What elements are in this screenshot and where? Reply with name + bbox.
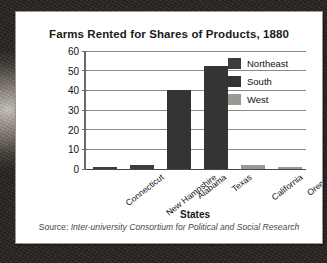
- source-note: Source: Inter-university Consortium for …: [16, 222, 322, 232]
- legend-swatch-west: [228, 94, 241, 105]
- x-axis-title: States: [84, 209, 306, 220]
- legend-label-west: West: [247, 94, 268, 105]
- legend-swatch-south: [228, 76, 241, 87]
- bar-oregon: [278, 167, 302, 169]
- legend: NortheastSouthWest: [228, 55, 314, 109]
- bar-connecticut: [93, 167, 117, 169]
- source-text: Inter-university Consortium for Politica…: [71, 222, 300, 232]
- source-prefix: Source:: [39, 222, 69, 232]
- y-tick-30: [82, 110, 87, 111]
- x-tick-label-oregon: Oregon: [305, 172, 323, 198]
- bar-texas: [204, 66, 228, 169]
- legend-item-south: South: [228, 73, 314, 89]
- y-tick-label-50: 50: [68, 65, 79, 76]
- y-tick-label-0: 0: [73, 164, 79, 175]
- x-tick-label-california: California: [269, 172, 304, 202]
- y-tick-label-20: 20: [68, 124, 79, 135]
- legend-label-northeast: Northeast: [247, 58, 288, 69]
- y-tick-label-60: 60: [68, 46, 79, 57]
- bar-alabama: [167, 90, 191, 169]
- gridline-20: [86, 129, 306, 130]
- y-tick-label-10: 10: [68, 144, 79, 155]
- y-tick-40: [82, 90, 87, 91]
- gridline-0: [86, 169, 306, 170]
- legend-swatch-northeast: [228, 58, 241, 69]
- y-tick-label-40: 40: [68, 85, 79, 96]
- y-tick-label-30: 30: [68, 105, 79, 116]
- legend-item-west: West: [228, 91, 314, 107]
- y-tick-60: [82, 51, 87, 52]
- gridline-10: [86, 149, 306, 150]
- gridline-30: [86, 110, 306, 111]
- bar-california: [241, 165, 265, 169]
- y-tick-0: [82, 169, 87, 170]
- legend-label-south: South: [247, 76, 272, 87]
- y-tick-20: [82, 129, 87, 130]
- x-tick-label-connecticut: Connecticut: [123, 172, 165, 208]
- bar-new-hampshire: [130, 165, 154, 169]
- gridline-60: [86, 51, 306, 52]
- chart-title: Farms Rented for Shares of Products, 188…: [16, 28, 322, 40]
- y-tick-50: [82, 70, 87, 71]
- x-tick-label-texas: Texas: [229, 172, 253, 194]
- chart-card: Farms Rented for Shares of Products, 188…: [15, 11, 323, 244]
- y-tick-10: [82, 149, 87, 150]
- legend-item-northeast: Northeast: [228, 55, 314, 71]
